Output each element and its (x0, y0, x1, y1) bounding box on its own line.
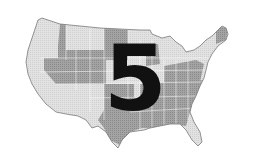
number-five-overlay: 5 (104, 38, 156, 120)
